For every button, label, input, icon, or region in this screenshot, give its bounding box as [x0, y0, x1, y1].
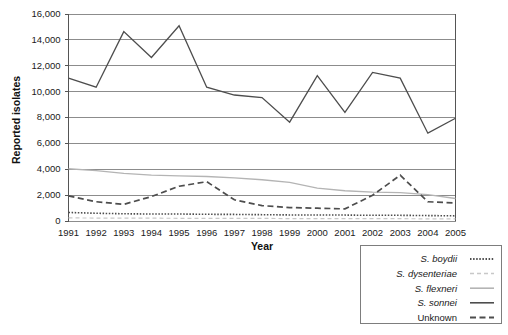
chart-legend: S. boydiiS. dysenteriaeS. flexneriS. son…: [361, 246, 502, 324]
line-chart: 02,0004,0006,0008,00010,00012,00014,0001…: [0, 0, 508, 335]
x-tick-label: 1995: [169, 227, 190, 238]
y-tick-label: 10,000: [31, 86, 60, 97]
y-tick-label: 6,000: [37, 137, 61, 148]
y-tick-label: 14,000: [31, 34, 60, 45]
legend-label-4: Unknown: [417, 312, 457, 323]
x-tick-label: 2001: [334, 227, 355, 238]
y-tick-label: 4,000: [37, 163, 61, 174]
y-tick-label: 8,000: [37, 111, 61, 122]
x-tick-label: 1992: [86, 227, 107, 238]
y-tick-label: 12,000: [31, 60, 60, 71]
series-line-s-flexneri: [69, 169, 456, 199]
gridlines: [69, 15, 456, 222]
x-axis-title: Year: [251, 240, 273, 252]
x-tick-label: 2004: [417, 227, 438, 238]
x-axis-tick-labels: 1991199219931994199519961997199819992000…: [58, 227, 466, 238]
legend-label-0: S. boydii: [421, 253, 458, 264]
x-tick-label: 2005: [445, 227, 466, 238]
y-axis-tick-labels: 02,0004,0006,0008,00010,00012,00014,0001…: [31, 8, 60, 226]
x-tick-label: 2002: [362, 227, 383, 238]
legend-label-2: S. flexneri: [415, 283, 458, 294]
x-tick-label: 1996: [196, 227, 217, 238]
y-tick-label: 0: [55, 215, 60, 226]
x-tick-label: 1993: [113, 227, 134, 238]
axis-tickmarks: [65, 15, 69, 222]
series-line-s-boydii: [69, 212, 456, 215]
legend-label-1: S. dysenteriae: [396, 268, 457, 279]
y-axis-title: Reported isolates: [10, 76, 22, 164]
chart-figure: 02,0004,0006,0008,00010,00012,00014,0001…: [0, 0, 508, 335]
y-tick-label: 2,000: [37, 189, 61, 200]
x-tick-label: 1994: [141, 227, 162, 238]
x-tick-label: 1997: [224, 227, 245, 238]
x-tick-label: 1991: [58, 227, 79, 238]
y-tick-label: 16,000: [31, 8, 60, 19]
x-tick-label: 1999: [279, 227, 300, 238]
data-series: [69, 26, 456, 219]
x-tick-label: 1998: [251, 227, 272, 238]
series-line-s-dysenteriae: [69, 218, 456, 219]
x-tick-label: 2000: [307, 227, 328, 238]
x-tick-label: 2003: [390, 227, 411, 238]
legend-label-3: S. sonnei: [417, 297, 457, 308]
